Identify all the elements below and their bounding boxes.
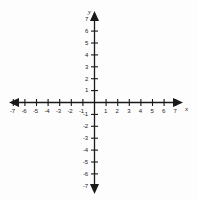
y-tick-label-7: 7 (85, 16, 88, 23)
y-tick-label--2: -2 (83, 123, 88, 130)
x-axis-left-arrowhead (9, 98, 19, 107)
axes-svg (0, 0, 197, 200)
y-tick-label--3: -3 (83, 135, 88, 142)
y-tick-label-2: 2 (85, 76, 88, 83)
x-tick-label-3: 3 (127, 108, 130, 115)
y-tick-label--4: -4 (83, 147, 88, 154)
x-tick-label-2: 2 (116, 108, 119, 115)
y-axis-label: y (88, 9, 91, 16)
y-tick-label--1: -1 (83, 111, 88, 118)
y-tick-label-1: 1 (85, 87, 88, 94)
x-tick-label-4: 4 (139, 108, 142, 115)
y-tick-label--5: -5 (83, 159, 88, 166)
x-tick-label--5: -5 (33, 108, 38, 115)
coordinate-plane-figure: -7 -6 -5 -4 -3 -2 -1 1 2 3 4 5 6 7 7 6 5… (0, 0, 197, 200)
x-tick-label--2: -2 (68, 108, 73, 115)
x-tick-label-7: 7 (174, 108, 177, 115)
x-tick-label-1: 1 (104, 108, 107, 115)
x-axis-label: x (185, 106, 188, 113)
y-tick-label-3: 3 (85, 64, 88, 71)
x-tick-label--7: -7 (10, 108, 15, 115)
y-tick-label-5: 5 (85, 40, 88, 47)
x-tick-label-6: 6 (162, 108, 165, 115)
y-tick-label-4: 4 (85, 52, 88, 59)
x-tick-label-5: 5 (150, 108, 153, 115)
x-axis-right-arrowhead (173, 98, 183, 107)
x-tick-label--3: -3 (56, 108, 61, 115)
x-tick-label--4: -4 (45, 108, 50, 115)
y-tick-label-6: 6 (85, 28, 88, 35)
y-tick-label--6: -6 (83, 171, 88, 178)
y-tick-label--7: -7 (83, 183, 88, 190)
x-tick-label--6: -6 (22, 108, 27, 115)
